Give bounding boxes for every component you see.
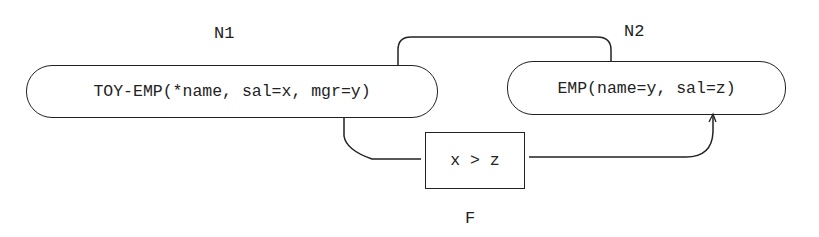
node-n1: TOY-EMP(*name, sal=x, mgr=y) — [26, 65, 438, 118]
node-n2: EMP(name=y, sal=z) — [507, 61, 786, 115]
filter-label: F — [465, 209, 475, 228]
filter-box: x > z — [425, 132, 525, 189]
filter-text: x > z — [450, 151, 500, 170]
edge-filter-n2 — [529, 116, 713, 157]
connector-lines — [0, 0, 819, 237]
node-label-n2: N2 — [624, 22, 644, 41]
node-label-n1: N1 — [214, 24, 234, 43]
edge-n1-filter — [344, 118, 421, 159]
node-n2-text: EMP(name=y, sal=z) — [557, 79, 735, 98]
node-n1-text: TOY-EMP(*name, sal=x, mgr=y) — [93, 82, 370, 101]
